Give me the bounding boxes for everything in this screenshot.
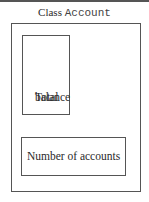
total-balance-box: Totalbalance (22, 35, 70, 115)
diagram-title: Class Account (0, 6, 149, 19)
number-of-accounts-label: Number of accounts (22, 150, 125, 162)
class-name: Account (65, 7, 111, 19)
title-prefix: Class (38, 6, 62, 18)
top-rule (0, 0, 149, 2)
number-of-accounts-box: Number of accounts (21, 137, 126, 176)
label-line-2: balance (35, 90, 70, 104)
